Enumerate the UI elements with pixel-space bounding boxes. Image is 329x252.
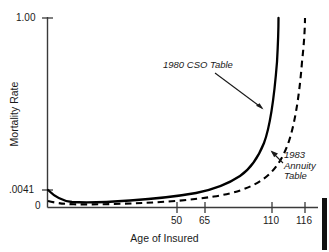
y-axis-title: Mortality Rate: [8, 74, 20, 154]
x-tick-label-110: 110: [263, 215, 279, 226]
x-tick-label-50: 50: [171, 215, 182, 226]
y-tick-label-1.00: 1.00: [16, 12, 35, 23]
series-1983-annuity-line: [48, 18, 305, 204]
page-edge-artifact: [322, 198, 327, 250]
mortality-rate-chart: 1.00 .0041 0 50 65 110 116 Mortality Rat…: [0, 0, 329, 252]
chart-plot-area: [0, 0, 329, 252]
x-axis-title: Age of Insured: [0, 232, 329, 244]
y-tick-label-0: 0: [35, 200, 41, 211]
x-tick-label-116: 116: [296, 215, 312, 226]
series-label-1983-annuity: 1983 Annuity Table: [284, 150, 316, 182]
x-tick-label-65: 65: [199, 215, 210, 226]
series-label-1983-annuity-line1: 1983: [284, 150, 316, 161]
series-1980-cso-line: [48, 18, 279, 202]
cso-annotation-leader: [215, 73, 262, 108]
y-tick-label-.0041: .0041: [9, 184, 34, 195]
series-label-1980-cso: 1980 CSO Table: [163, 60, 233, 71]
series-label-1983-annuity-line3: Table: [284, 171, 316, 182]
